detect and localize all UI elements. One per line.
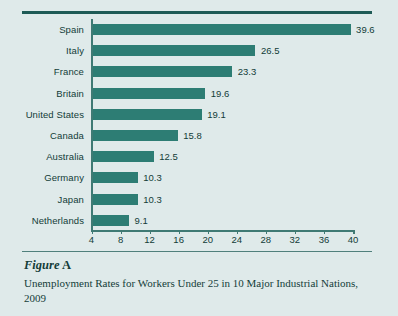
bar-row: Britain19.6 [0, 83, 398, 104]
x-axis-tick-label: 16 [166, 234, 192, 245]
bar [92, 194, 138, 205]
bar [92, 24, 351, 35]
x-axis-tick-label: 24 [224, 234, 250, 245]
figure-page: Spain39.6Italy26.5France23.3Britain19.6U… [0, 0, 398, 316]
x-axis-tick-label: 32 [282, 234, 308, 245]
x-axis-line [91, 230, 353, 232]
bar-value-label: 39.6 [356, 19, 375, 40]
bar-value-label: 26.5 [261, 40, 280, 61]
bar-row: France23.3 [0, 61, 398, 82]
bar-value-label: 23.3 [238, 61, 257, 82]
category-label: France [0, 61, 84, 82]
bar-row: Netherlands9.1 [0, 210, 398, 231]
bar [92, 66, 232, 77]
figure-number-line: Figure A [24, 258, 380, 273]
x-axis-tick-label: 36 [311, 234, 337, 245]
x-axis-tick-label: 8 [108, 234, 134, 245]
category-label: United States [0, 104, 84, 125]
bar [92, 45, 255, 56]
bar [92, 88, 205, 99]
bar-row: Italy26.5 [0, 40, 398, 61]
bar [92, 172, 138, 183]
figure-word: Figure [24, 258, 59, 272]
figure-letter-value: A [62, 258, 71, 272]
bar-value-label: 19.1 [207, 104, 226, 125]
bar-value-label: 19.6 [211, 83, 230, 104]
bar-value-label: 10.3 [143, 189, 162, 210]
category-label: Spain [0, 19, 84, 40]
category-label: Netherlands [0, 210, 84, 231]
caption-divider [22, 251, 372, 252]
x-axis-tick-label: 4 [79, 234, 105, 245]
x-axis-tick-label: 12 [137, 234, 163, 245]
category-label: Japan [0, 189, 84, 210]
category-label: Germany [0, 167, 84, 188]
figure-caption-text: Unemployment Rates for Workers Under 25 … [24, 276, 364, 305]
bar [92, 109, 202, 120]
bar-row: Australia12.5 [0, 146, 398, 167]
bar-value-label: 15.8 [183, 125, 202, 146]
bar-row: Japan10.3 [0, 189, 398, 210]
y-axis-line [91, 19, 93, 231]
bar-value-label: 9.1 [135, 210, 148, 231]
top-divider [22, 11, 372, 14]
bar [92, 151, 154, 162]
category-label: Britain [0, 83, 84, 104]
bar-row: Spain39.6 [0, 19, 398, 40]
bar-row: Germany10.3 [0, 167, 398, 188]
bar [92, 130, 178, 141]
category-label: Australia [0, 146, 84, 167]
x-axis-tick-label: 40 [340, 234, 366, 245]
x-axis-tick-label: 20 [195, 234, 221, 245]
bar-row: United States19.1 [0, 104, 398, 125]
bar-value-label: 12.5 [159, 146, 178, 167]
bar-value-label: 10.3 [143, 167, 162, 188]
bar-row: Canada15.8 [0, 125, 398, 146]
bar-chart: Spain39.6Italy26.5France23.3Britain19.6U… [0, 18, 398, 244]
x-axis-tick-label: 28 [253, 234, 279, 245]
figure-caption: Figure A Unemployment Rates for Workers … [24, 258, 380, 305]
bar [92, 215, 129, 226]
category-label: Canada [0, 125, 84, 146]
category-label: Italy [0, 40, 84, 61]
